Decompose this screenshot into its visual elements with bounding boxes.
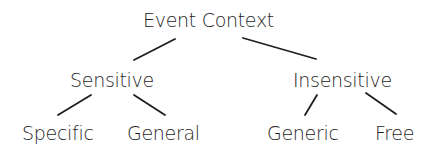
edge-insensitive-to-generic [305,95,317,115]
node-free: Free [375,124,414,143]
edge-root-to-sensitive [134,39,175,60]
edge-sensitive-to-general [134,95,165,115]
node-general: General [127,124,200,143]
node-root: Event Context [143,11,274,30]
edge-root-to-insensitive [243,38,316,59]
edge-sensitive-to-specific [58,95,91,115]
edge-insensitive-to-free [366,93,396,114]
node-specific: Specific [22,124,94,143]
node-sensitive: Sensitive [70,71,154,90]
node-generic: Generic [267,124,339,143]
node-insensitive: Insensitive [293,71,392,90]
event-context-tree-diagram: Event Context Sensitive Insensitive Spec… [0,0,437,157]
